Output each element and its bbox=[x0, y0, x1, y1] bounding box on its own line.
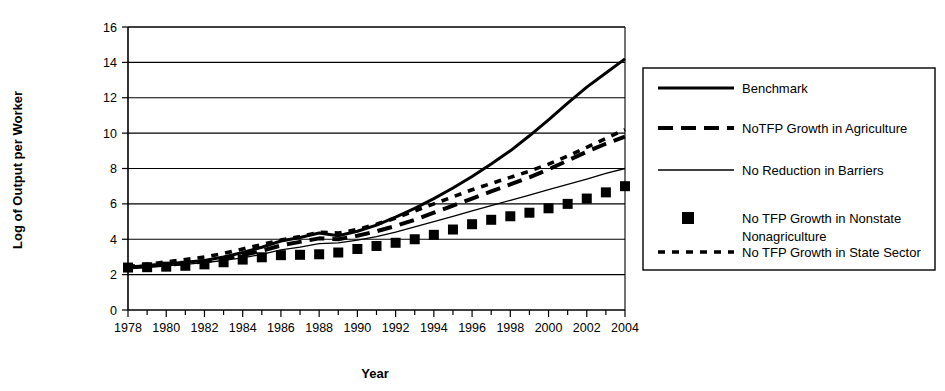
data-marker bbox=[582, 194, 592, 204]
x-tick-label: 2004 bbox=[611, 321, 639, 335]
data-marker bbox=[257, 252, 267, 262]
data-marker bbox=[314, 249, 324, 259]
data-marker bbox=[276, 250, 286, 260]
x-tick-label: 1988 bbox=[305, 321, 333, 335]
data-marker bbox=[544, 203, 554, 213]
y-tick-label: 0 bbox=[110, 304, 117, 318]
x-tick-label: 1994 bbox=[420, 321, 448, 335]
data-marker bbox=[238, 255, 248, 265]
y-tick-label: 4 bbox=[110, 233, 117, 247]
x-axis-title: Year bbox=[361, 366, 388, 381]
y-tick-label: 16 bbox=[103, 21, 117, 35]
y-tick-label: 10 bbox=[103, 127, 117, 141]
legend-swatch-marker bbox=[682, 212, 694, 224]
data-marker bbox=[601, 187, 611, 197]
legend-label-line2: Nonagriculture bbox=[742, 229, 827, 244]
x-tick-label: 1980 bbox=[152, 321, 180, 335]
legend-label: Benchmark bbox=[742, 81, 808, 96]
legend-label: NoTFP Growth in Agriculture bbox=[742, 121, 907, 136]
chart-figure: Log of Output per Worker Year 0246810121… bbox=[0, 0, 945, 391]
data-marker bbox=[333, 248, 343, 258]
data-marker bbox=[372, 241, 382, 251]
data-marker bbox=[505, 211, 515, 221]
data-marker bbox=[429, 230, 439, 240]
data-marker bbox=[219, 257, 229, 267]
y-tick-label: 8 bbox=[110, 162, 117, 176]
x-tick-label: 1998 bbox=[496, 321, 524, 335]
y-axis-title: Log of Output per Worker bbox=[10, 91, 25, 249]
y-tick-label: 2 bbox=[110, 268, 117, 282]
x-tick-label: 1978 bbox=[114, 321, 142, 335]
data-marker bbox=[448, 225, 458, 235]
data-marker bbox=[524, 208, 534, 218]
x-tick-label: 1990 bbox=[343, 321, 371, 335]
y-tick-label: 6 bbox=[110, 197, 117, 211]
y-tick-label: 14 bbox=[103, 56, 117, 70]
data-marker bbox=[199, 259, 209, 269]
legend-label: No Reduction in Barriers bbox=[742, 163, 884, 178]
data-marker bbox=[486, 215, 496, 225]
x-tick-label: 1984 bbox=[229, 321, 257, 335]
data-marker bbox=[295, 250, 305, 260]
data-marker bbox=[467, 219, 477, 229]
data-marker bbox=[410, 234, 420, 244]
data-marker bbox=[180, 261, 190, 271]
data-marker bbox=[563, 199, 573, 209]
x-tick-label: 2002 bbox=[573, 321, 601, 335]
legend-label: No TFP Growth in State Sector bbox=[742, 245, 921, 260]
x-tick-label: 2000 bbox=[535, 321, 563, 335]
legend-label: No TFP Growth in Nonstate bbox=[742, 211, 901, 226]
data-marker bbox=[620, 181, 630, 191]
y-tick-label: 12 bbox=[103, 91, 117, 105]
x-tick-label: 1996 bbox=[458, 321, 486, 335]
x-tick-label: 1986 bbox=[267, 321, 295, 335]
x-tick-label: 1992 bbox=[382, 321, 410, 335]
x-tick-label: 1982 bbox=[191, 321, 219, 335]
data-marker bbox=[391, 238, 401, 248]
data-marker bbox=[352, 244, 362, 254]
